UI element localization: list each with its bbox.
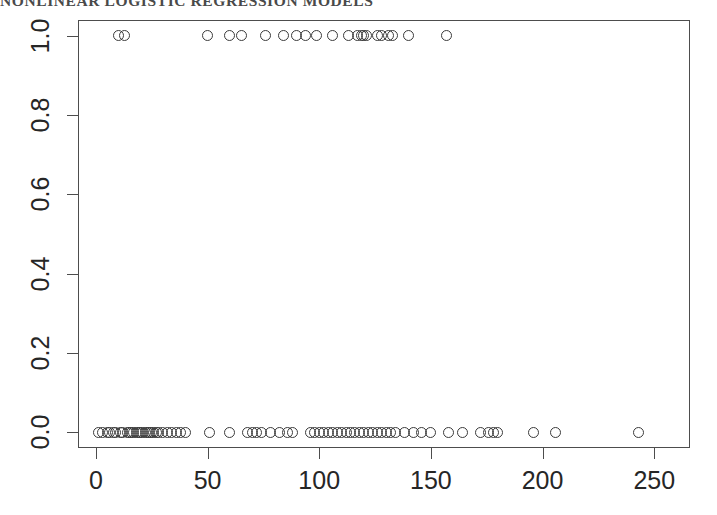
y-axis-tick-label: 1.0 — [26, 18, 55, 53]
x-axis-tick — [96, 448, 97, 459]
scatter-plot-figure: 0.00.20.40.60.81.0 050100150200250 — [0, 0, 717, 515]
y-axis-tick-label: 0.8 — [26, 98, 55, 133]
y-axis-tick-label: 0.6 — [26, 177, 55, 212]
y-axis-tick — [67, 274, 78, 275]
x-axis-tick-label: 250 — [633, 466, 675, 495]
x-axis-tick — [543, 448, 544, 459]
y-axis-tick-label: 0.0 — [26, 415, 55, 450]
x-axis-tick-label: 0 — [89, 466, 103, 495]
y-axis-tick-label: 0.2 — [26, 335, 55, 370]
x-axis-tick-label: 200 — [522, 466, 564, 495]
y-axis-tick — [67, 432, 78, 433]
x-axis-tick — [319, 448, 320, 459]
x-axis-tick-label: 150 — [410, 466, 452, 495]
y-axis-tick-label: 0.4 — [26, 256, 55, 291]
y-axis-tick — [67, 115, 78, 116]
y-axis-tick — [67, 194, 78, 195]
x-axis-tick-label: 50 — [194, 466, 222, 495]
y-axis-tick — [67, 36, 78, 37]
x-axis-tick — [654, 448, 655, 459]
y-axis-tick — [67, 353, 78, 354]
x-axis-tick-label: 100 — [298, 466, 340, 495]
plot-frame — [78, 20, 690, 448]
x-axis-tick — [431, 448, 432, 459]
x-axis-tick — [208, 448, 209, 459]
